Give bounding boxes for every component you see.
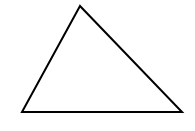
diagram-canvas: [0, 0, 195, 131]
triangle-shape: [22, 6, 182, 112]
